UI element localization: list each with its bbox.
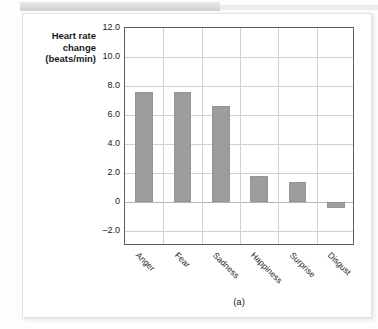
gridline-vertical: [240, 28, 241, 244]
y-tick-label: 6.0: [88, 109, 120, 119]
bar-sadness: [212, 106, 230, 202]
plot-inner: [125, 28, 353, 244]
y-axis-title-line-1: Heart rate: [10, 30, 96, 42]
y-tick-label: 8.0: [88, 80, 120, 90]
gridline-horizontal: [125, 115, 353, 116]
y-axis-title: Heart rate change (beats/min): [10, 30, 96, 65]
y-tick-label: 0: [88, 196, 120, 206]
y-axis-title-line-3: (beats/min): [10, 53, 96, 65]
x-tick-label: Disgust: [326, 250, 353, 277]
plot-area: [124, 27, 354, 245]
bar-disgust: [327, 202, 345, 208]
gridline-horizontal: [125, 144, 353, 145]
top-grey-band: [20, 2, 220, 11]
x-tick-label: Surprise: [287, 250, 316, 279]
x-tick-label: Happiness: [249, 250, 284, 285]
top-grey-band-right: [220, 5, 378, 10]
gridline-vertical: [278, 28, 279, 244]
gridline-horizontal: [125, 202, 353, 203]
bar-fear: [174, 92, 192, 202]
y-tick-label: 2.0: [88, 167, 120, 177]
gridline-horizontal: [125, 86, 353, 87]
x-tick-label: Fear: [172, 250, 191, 269]
gridline-vertical: [317, 28, 318, 244]
gridline-horizontal: [125, 57, 353, 58]
gridline-horizontal: [125, 173, 353, 174]
gridline-vertical: [202, 28, 203, 244]
y-tick-label: 10.0: [88, 51, 120, 61]
bar-surprise: [289, 182, 307, 202]
figure-page: Heart rate change (beats/min) 12.010.08.…: [0, 0, 378, 329]
figure-caption: (a): [124, 296, 354, 307]
gridline-vertical: [163, 28, 164, 244]
x-tick-label: Sadness: [211, 250, 241, 280]
bar-anger: [135, 92, 153, 202]
x-axis-tick-labels: AngerFearSadnessHappinessSurpriseDisgust: [124, 247, 354, 293]
y-tick-label: 12.0: [88, 22, 120, 32]
bar-happiness: [250, 176, 268, 202]
y-axis-title-line-2: change: [10, 42, 96, 54]
y-axis-tick-labels: 12.010.08.06.04.02.00–2.0: [85, 27, 120, 245]
x-tick-label: Anger: [134, 250, 157, 273]
y-tick-label: 4.0: [88, 138, 120, 148]
y-tick-label: –2.0: [88, 225, 120, 235]
gridline-horizontal: [125, 231, 353, 232]
